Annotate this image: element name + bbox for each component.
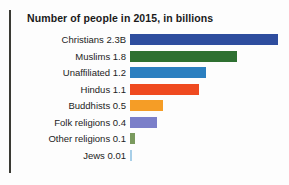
bar-rect bbox=[130, 84, 199, 95]
bar-row: Christians 2.3B bbox=[0, 33, 289, 49]
bar-category-label: Other religions 0.1 bbox=[0, 132, 126, 145]
bar-row: Jews 0.01 bbox=[0, 149, 289, 165]
bar-row: Muslims 1.8 bbox=[0, 50, 289, 66]
bar-rect bbox=[130, 51, 237, 62]
bar-row: Other religions 0.1 bbox=[0, 132, 289, 148]
bar-rect bbox=[130, 133, 135, 144]
bar-rect bbox=[130, 100, 163, 111]
bar-row: Folk religions 0.4 bbox=[0, 116, 289, 132]
bar-chart: Number of people in 2015, in billions Ch… bbox=[0, 0, 289, 185]
bar-rect bbox=[130, 67, 206, 78]
bar-category-label: Jews 0.01 bbox=[0, 149, 126, 162]
plot-area: Christians 2.3BMuslims 1.8Unaffiliated 1… bbox=[0, 33, 289, 178]
bar-category-label: Unaffiliated 1.2 bbox=[0, 66, 126, 79]
bar-category-label: Folk religions 0.4 bbox=[0, 116, 126, 129]
bar-rect bbox=[130, 34, 278, 45]
bar-row: Hindus 1.1 bbox=[0, 83, 289, 99]
bar-category-label: Hindus 1.1 bbox=[0, 83, 126, 96]
bar-rect bbox=[130, 117, 157, 128]
chart-title: Number of people in 2015, in billions bbox=[27, 12, 213, 24]
bar-category-label: Buddhists 0.5 bbox=[0, 99, 126, 112]
bar-category-label: Christians 2.3B bbox=[0, 33, 126, 46]
bar-row: Unaffiliated 1.2 bbox=[0, 66, 289, 82]
bar-category-label: Muslims 1.8 bbox=[0, 50, 126, 63]
bar-rect bbox=[130, 150, 132, 161]
bar-row: Buddhists 0.5 bbox=[0, 99, 289, 115]
